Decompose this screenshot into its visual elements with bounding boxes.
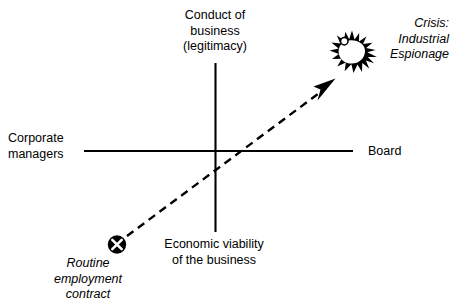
routine-marker-label: Routine employment contract: [26, 256, 150, 303]
diagram-canvas: Conduct of business (legitimacy) Economi…: [0, 0, 453, 308]
vertical-axis-top-label: Conduct of business (legitimacy): [148, 8, 282, 55]
horizontal-axis-left-label: Corporate managers: [8, 131, 78, 162]
vertical-axis-bottom-label: Economic viability of the business: [140, 237, 288, 268]
dashed-arrow-shaft: [127, 88, 326, 236]
horizontal-axis-right-label: Board: [368, 144, 438, 160]
dashed-arrow-head: [314, 79, 336, 101]
crisis-marker-label: Crisis: Industrial Espionage: [330, 16, 449, 63]
circled-x-marker: [108, 235, 126, 253]
